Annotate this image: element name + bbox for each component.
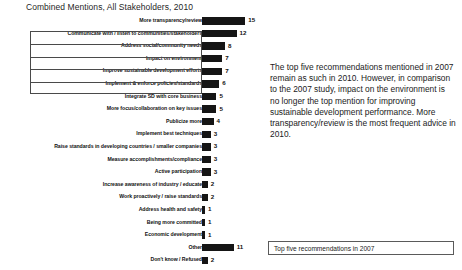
bar [202, 17, 245, 24]
bar [202, 80, 219, 87]
bar [202, 118, 214, 125]
bar-row-label: More focus/collaboration on key issues [107, 104, 202, 113]
bar [202, 219, 205, 226]
bar-row: Address social/community needs8 [0, 40, 262, 53]
bar-row-label: Don't know / Refused [150, 255, 202, 264]
bar-row: Raise standards in developing countries … [0, 141, 262, 154]
bar-row: Active participation3 [0, 166, 262, 179]
bar [202, 30, 237, 37]
bar [202, 156, 211, 163]
bar-value-label: 12 [240, 29, 247, 36]
bar-value-label: 1 [208, 231, 211, 238]
bar-row-label: Improve sustainable development efforts [103, 66, 202, 75]
legend-box: Top five recommendations in 2007 [268, 241, 454, 255]
bar-value-label: 3 [214, 155, 217, 162]
bar-row-label: Address health and safety [139, 205, 202, 214]
bar-row-label: Raise standards in developing countries … [54, 142, 202, 151]
bar-row: Measure accomplishments/compliance3 [0, 154, 262, 167]
bar-value-label: 15 [248, 16, 255, 23]
bar-row-label: Impact on environment [146, 54, 202, 63]
bar-row-label: Economic development [145, 230, 202, 239]
bar-row: More transparency/review15 [0, 15, 262, 28]
bar [202, 168, 211, 175]
plot-area: More transparency/review15Communicate wi… [0, 15, 262, 247]
bar [202, 93, 216, 100]
bar-row-label: Communicate with / listen to communities… [67, 29, 202, 38]
bar-value-label: 3 [214, 130, 217, 137]
bar-row: Being more committed1 [0, 217, 262, 230]
bar-row: More focus/collaboration on key issues5 [0, 103, 262, 116]
bar-value-label: 5 [219, 105, 222, 112]
bar-row: Implement & enforce policies/standards6 [0, 78, 262, 91]
bar [202, 42, 225, 49]
annotation-text: The top five recommendations mentioned i… [270, 62, 456, 140]
bar [202, 194, 208, 201]
bar-row: Impact on environment7 [0, 53, 262, 66]
bar-value-label: 5 [219, 92, 222, 99]
bar-row: Publicize more4 [0, 116, 262, 129]
bar-row: Implement best techniques3 [0, 128, 262, 141]
bar [202, 181, 208, 188]
bar [202, 244, 234, 251]
bar-value-label: 6 [222, 79, 225, 86]
bar-row: Improve sustainable development efforts7 [0, 65, 262, 78]
bar [202, 105, 216, 112]
bar-row: Address health and safety1 [0, 204, 262, 217]
bar-row: Don't know / Refused2 [0, 254, 262, 267]
bar-row-label: Implement & enforce policies/standards [106, 79, 202, 88]
bar-row: Communicate with / listen to communities… [0, 28, 262, 41]
bar-value-label: 3 [214, 168, 217, 175]
bar-row-label: Other [188, 243, 202, 252]
bar-row-label: Active participation [155, 167, 202, 176]
bar-value-label: 7 [225, 67, 228, 74]
bar-value-label: 1 [208, 218, 211, 225]
bar-row-label: Implement best techniques [136, 129, 202, 138]
bar-row-label: Increase awareness of industry / educate [103, 180, 202, 189]
bar-value-label: 2 [211, 256, 214, 263]
bar [202, 55, 222, 62]
bar-row: Economic development1 [0, 229, 262, 242]
bar-row: Increase awareness of industry / educate… [0, 179, 262, 192]
legend-label: Top five recommendations in 2007 [274, 245, 374, 252]
bar [202, 257, 208, 264]
bar-value-label: 8 [228, 42, 231, 49]
bar-row-label: Being more committed [147, 218, 202, 227]
bar-row-label: Work proactively / raise standards [119, 192, 202, 201]
bar-row-label: More transparency/review [139, 16, 202, 25]
bar-row-label: Publicize more [166, 117, 202, 126]
bar [202, 68, 222, 75]
bar-row: Other11 [0, 242, 262, 255]
bar-value-label: 1 [208, 205, 211, 212]
bar-value-label: 2 [211, 180, 214, 187]
bar [202, 231, 205, 238]
bar-value-label: 3 [214, 142, 217, 149]
bar-value-label: 11 [237, 243, 244, 250]
bar-value-label: 2 [211, 193, 214, 200]
bar-row: Work proactively / raise standards2 [0, 191, 262, 204]
chart-title: Combined Mentions, All Stakeholders, 201… [26, 2, 193, 12]
bar-row-label: Measure accomplishments/compliance [107, 155, 202, 164]
bar-row-label: Integrate SD with core business [125, 92, 202, 101]
bar [202, 131, 211, 138]
bar-row: Integrate SD with core business5 [0, 91, 262, 104]
bar-row-label: Address social/community needs [121, 41, 202, 50]
bar [202, 206, 205, 213]
bar [202, 143, 211, 150]
bar-value-label: 4 [217, 117, 220, 124]
bar-value-label: 7 [225, 54, 228, 61]
